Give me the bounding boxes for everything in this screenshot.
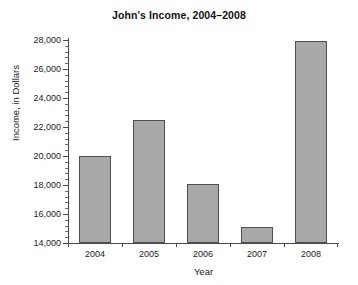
- y-axis-minor-tick: [65, 231, 68, 232]
- x-axis-tick: [122, 243, 123, 247]
- x-axis-tick-label: 2005: [139, 249, 159, 259]
- x-axis-tick: [68, 243, 69, 247]
- x-axis-tick: [337, 243, 338, 247]
- x-axis-tick-label: 2007: [247, 249, 267, 259]
- y-axis-minor-tick: [65, 139, 68, 140]
- y-axis-minor-tick: [65, 110, 68, 111]
- y-axis-minor-tick: [65, 202, 68, 203]
- x-axis-tick-label: 2008: [301, 249, 321, 259]
- y-axis-minor-tick: [65, 104, 68, 105]
- y-axis-tick-label: 20,000: [33, 151, 61, 161]
- y-axis-tick-label: 22,000: [33, 122, 61, 132]
- y-axis-minor-tick: [65, 150, 68, 151]
- x-axis-title: Year: [68, 266, 339, 277]
- y-axis-tick: [63, 214, 68, 215]
- bar-chart: John's Income, 2004–2008 Income, in Doll…: [0, 0, 358, 285]
- x-axis-tick: [230, 243, 231, 247]
- bar: [187, 184, 218, 243]
- y-axis-minor-tick: [65, 75, 68, 76]
- y-axis-minor-tick: [65, 237, 68, 238]
- bar: [79, 156, 110, 243]
- x-axis-tick: [176, 243, 177, 247]
- y-axis-minor-tick: [65, 63, 68, 64]
- x-axis-tick-label: 2006: [193, 249, 213, 259]
- y-axis-tick-label: 18,000: [33, 180, 61, 190]
- x-axis-tick-label: 2004: [85, 249, 105, 259]
- y-axis-tick: [63, 127, 68, 128]
- y-axis-minor-tick: [65, 220, 68, 221]
- x-axis-tick: [284, 243, 285, 247]
- y-axis-tick-label: 28,000: [33, 35, 61, 45]
- y-axis-minor-tick: [65, 133, 68, 134]
- bar: [133, 120, 164, 243]
- bar: [241, 227, 272, 243]
- plot-area: 14,00016,00018,00020,00022,00024,00026,0…: [68, 40, 338, 243]
- y-axis-minor-tick: [65, 121, 68, 122]
- bar: [295, 41, 326, 243]
- y-axis-minor-tick: [65, 115, 68, 116]
- y-axis-tick: [63, 185, 68, 186]
- y-axis-minor-tick: [65, 144, 68, 145]
- y-axis-minor-tick: [65, 81, 68, 82]
- y-axis-tick: [63, 156, 68, 157]
- y-axis-tick-label: 14,000: [33, 238, 61, 248]
- y-axis-minor-tick: [65, 191, 68, 192]
- y-axis-minor-tick: [65, 168, 68, 169]
- y-axis-title: Income, in Dollars: [10, 65, 21, 141]
- y-axis-minor-tick: [65, 208, 68, 209]
- y-axis-minor-tick: [65, 86, 68, 87]
- y-axis-minor-tick: [65, 179, 68, 180]
- y-axis-tick: [63, 98, 68, 99]
- y-axis-minor-tick: [65, 57, 68, 58]
- y-axis-minor-tick: [65, 92, 68, 93]
- y-axis-tick-label: 26,000: [33, 64, 61, 74]
- y-axis-tick: [63, 40, 68, 41]
- y-axis-minor-tick: [65, 197, 68, 198]
- y-axis-minor-tick: [65, 173, 68, 174]
- y-axis-minor-tick: [65, 162, 68, 163]
- y-axis-minor-tick: [65, 226, 68, 227]
- y-axis-tick: [63, 69, 68, 70]
- y-axis-minor-tick: [65, 46, 68, 47]
- x-axis-line: [68, 243, 339, 244]
- y-axis-tick-label: 24,000: [33, 93, 61, 103]
- chart-title: John's Income, 2004–2008: [0, 9, 358, 21]
- y-axis-tick-label: 16,000: [33, 209, 61, 219]
- y-axis-minor-tick: [65, 52, 68, 53]
